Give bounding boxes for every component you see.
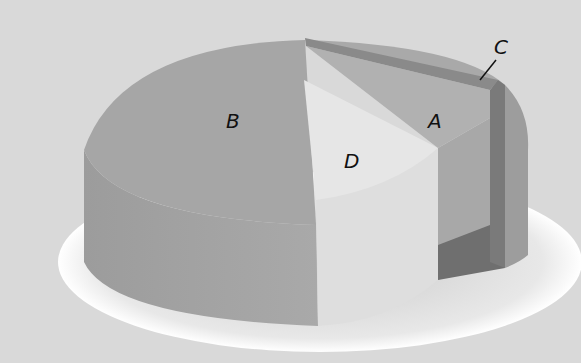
label-a: A [426,109,442,133]
pie-chart: B D A C [0,0,581,363]
slice-c-side [490,80,505,268]
label-c: C [494,35,508,59]
label-d: D [344,149,359,173]
label-b: B [226,109,240,133]
slice-b-side-right [505,85,528,268]
